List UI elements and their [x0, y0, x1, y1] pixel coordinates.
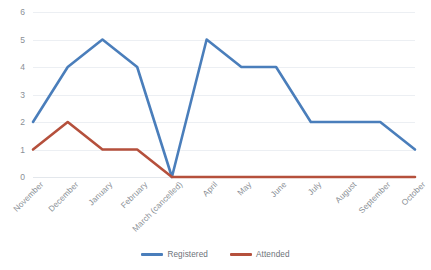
plot-area — [33, 12, 415, 177]
legend-swatch-icon — [141, 253, 163, 256]
y-tick-label: 3 — [20, 90, 25, 100]
series-line-registered — [33, 40, 415, 178]
x-tick-label: June — [269, 180, 288, 199]
y-tick-label: 2 — [20, 117, 25, 127]
x-axis: NovemberDecemberJanuaryFebruaryMarch (ca… — [33, 180, 415, 242]
x-tick-label: January — [87, 180, 114, 207]
x-tick-label: February — [119, 180, 149, 210]
x-tick-label: September — [357, 180, 392, 215]
y-tick-label: 5 — [20, 35, 25, 45]
x-tick-label: May — [236, 180, 254, 198]
legend-label: Registered — [167, 250, 208, 259]
legend-item-registered[interactable]: Registered — [141, 250, 208, 259]
x-tick-label: April — [201, 180, 219, 198]
chart-legend: RegisteredAttended — [0, 250, 431, 259]
y-tick-label: 4 — [20, 62, 25, 72]
y-tick-label: 6 — [20, 7, 25, 17]
series-line-attended — [33, 122, 415, 177]
x-tick-label: July — [306, 180, 323, 197]
legend-swatch-icon — [230, 253, 252, 256]
y-axis: 0123456 — [0, 0, 33, 190]
x-tick-label: October — [400, 180, 427, 207]
line-chart: 0123456 NovemberDecemberJanuaryFebruaryM… — [0, 0, 431, 270]
y-tick-label: 1 — [20, 145, 25, 155]
x-tick-label: December — [46, 180, 80, 214]
x-tick-label: August — [333, 180, 358, 205]
legend-item-attended[interactable]: Attended — [230, 250, 290, 259]
legend-label: Attended — [256, 250, 290, 259]
y-tick-label: 0 — [20, 172, 25, 182]
series-container — [33, 12, 415, 177]
